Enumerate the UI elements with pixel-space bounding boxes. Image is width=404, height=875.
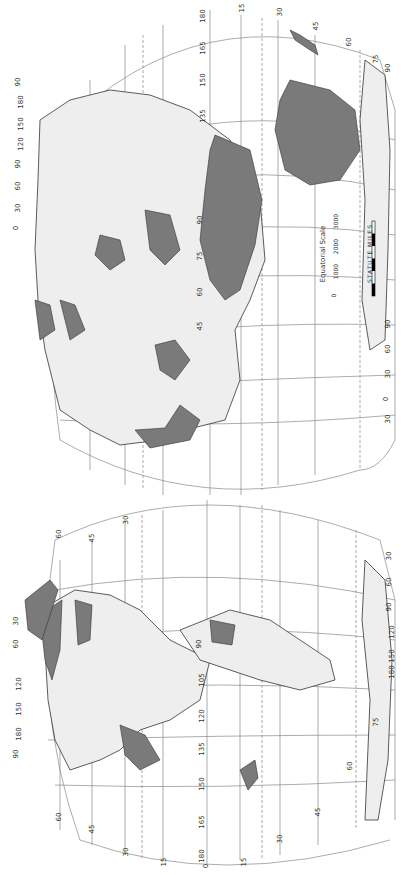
polar-label: 90 bbox=[384, 320, 392, 329]
polar-label: 60 bbox=[384, 345, 392, 354]
polar-label: 90 bbox=[12, 750, 20, 759]
polar-label: 0 bbox=[12, 226, 20, 230]
east-lon-label: 45 bbox=[312, 22, 320, 31]
polar-label: 180 bbox=[15, 727, 23, 740]
polar-label: 30 bbox=[384, 370, 392, 379]
edge-label: 165 bbox=[199, 41, 207, 54]
east-lon-label: 15 bbox=[238, 4, 246, 13]
polar-label: 180 bbox=[388, 665, 396, 678]
polar-label: 60 bbox=[14, 182, 22, 191]
polar-label: 30 bbox=[384, 415, 392, 424]
scale-units: STATUTE MILES bbox=[366, 224, 373, 283]
polar-label: 90 bbox=[14, 160, 22, 169]
western-hemisphere-map bbox=[25, 500, 395, 865]
scale-title: Equatorial Scale bbox=[319, 226, 327, 283]
lat-label: 45 bbox=[314, 808, 322, 817]
lat-label: 45 bbox=[88, 825, 96, 834]
edge-label: 75 bbox=[196, 252, 204, 261]
east-lon-label: 30 bbox=[276, 8, 284, 17]
east-lon-label: 75 bbox=[372, 55, 380, 64]
lon-label: 180 bbox=[198, 849, 206, 862]
polar-label: 120 bbox=[17, 137, 25, 150]
lon-label: 90 bbox=[195, 640, 203, 649]
polar-label: 150 bbox=[388, 649, 396, 662]
edge-label: 45 bbox=[196, 322, 204, 331]
scale-tick-1000: 1000 bbox=[332, 264, 339, 279]
edge-label: 180 bbox=[199, 9, 207, 22]
lon-label: 105 bbox=[198, 673, 206, 686]
lat-label: 60 bbox=[55, 530, 63, 539]
polar-label: 0 bbox=[382, 397, 390, 401]
lat-label: 60 bbox=[346, 762, 354, 771]
scale-tick-2000: 2000 bbox=[332, 239, 339, 254]
lat-label: 0 bbox=[202, 864, 210, 868]
lat-label: 15 bbox=[240, 858, 248, 867]
scale-tick-3000: 3000 bbox=[332, 214, 339, 229]
edge-label: 150 bbox=[199, 73, 207, 86]
polar-label: 30 bbox=[14, 204, 22, 213]
lat-label: 30 bbox=[122, 848, 130, 857]
lat-label: 30 bbox=[276, 835, 284, 844]
scale-legend: Equatorial Scale STATUTE MILES 0 1000 20… bbox=[310, 210, 400, 310]
lon-label: 120 bbox=[198, 709, 206, 722]
lon-label: 150 bbox=[198, 777, 206, 790]
east-lon-label: 90 bbox=[384, 64, 392, 73]
east-lon-label: 60 bbox=[345, 38, 353, 47]
lon-label: 135 bbox=[198, 742, 206, 755]
edge-label: 135 bbox=[199, 109, 207, 122]
scale-tick-0: 0 bbox=[330, 294, 337, 298]
lat-label: 15 bbox=[160, 858, 168, 867]
polar-label: 90 bbox=[14, 78, 22, 87]
polar-label: 150 bbox=[15, 702, 23, 715]
lat-label: 30 bbox=[122, 516, 130, 525]
polar-label: 30 bbox=[385, 552, 393, 561]
edge-label: 60 bbox=[196, 288, 204, 297]
polar-label: 120 bbox=[15, 677, 23, 690]
lat-label: 60 bbox=[55, 813, 63, 822]
edge-label: 90 bbox=[196, 216, 204, 225]
polar-label: 180 bbox=[17, 95, 25, 108]
polar-label: 30 bbox=[12, 617, 20, 626]
polar-label: 60 bbox=[12, 640, 20, 649]
lat-label: 45 bbox=[88, 534, 96, 543]
polar-label: 120 bbox=[388, 625, 396, 638]
lat-label: 75 bbox=[372, 718, 380, 727]
lon-label: 165 bbox=[198, 815, 206, 828]
polar-label: 150 bbox=[17, 117, 25, 130]
polar-label: 90 bbox=[385, 603, 393, 612]
polar-label: 60 bbox=[385, 578, 393, 587]
